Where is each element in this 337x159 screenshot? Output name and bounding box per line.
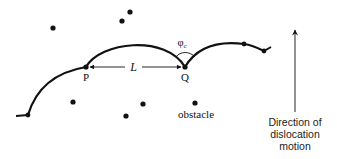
pin-start-dot <box>26 113 31 118</box>
obstacle-dot <box>140 101 145 106</box>
critical-angle: φc <box>176 37 195 57</box>
dislocation-diagram: L P Q φc obstacle Direction of dislocati… <box>0 0 337 159</box>
spacing-indicator: L <box>90 60 181 74</box>
pin-end-dot <box>262 49 267 54</box>
pin-right-dot <box>242 42 247 47</box>
pin-q-dot <box>182 64 187 69</box>
spacing-label: L <box>129 60 137 74</box>
obstacle-dot-labeled <box>192 100 197 105</box>
point-q-label: Q <box>181 71 189 83</box>
obstacle-dot <box>119 18 124 23</box>
direction-caption-line3: motion <box>279 140 311 152</box>
point-p-label: P <box>83 71 89 83</box>
angle-label: φc <box>177 37 186 50</box>
obstacle-dot <box>70 99 75 104</box>
pinning-points <box>26 42 267 118</box>
obstacle-dot <box>50 25 55 30</box>
direction-caption-line2: dislocation <box>270 128 320 140</box>
obstacle-dot <box>123 113 128 118</box>
direction-caption-line1: Direction of <box>268 116 321 128</box>
obstacle-label: obstacle <box>178 108 214 120</box>
obstacles <box>50 9 197 118</box>
angle-subscript: c <box>183 42 186 50</box>
pin-p-dot <box>83 64 88 69</box>
obstacle-dot <box>127 9 132 14</box>
